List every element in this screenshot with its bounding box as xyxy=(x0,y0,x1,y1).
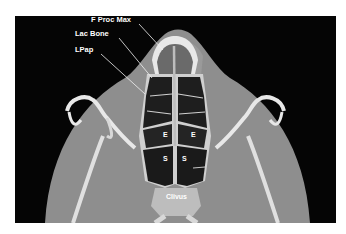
region-label-ethmoid-left: E xyxy=(163,131,168,138)
region-label-clivus: Clivus xyxy=(166,193,187,200)
ct-scan-image: F Proc Max Lac Bone LPap E E S S Clivus xyxy=(15,16,336,223)
region-label-sphenoid-left: S xyxy=(163,155,168,162)
region-label-sphenoid-right: S xyxy=(182,155,187,162)
annotation-lac-bone: Lac Bone xyxy=(75,30,109,38)
annotation-lpap: LPap xyxy=(75,46,93,54)
ct-scan-graphic xyxy=(15,16,336,223)
region-label-ethmoid-right: E xyxy=(191,131,196,138)
annotation-f-proc-max: F Proc Max xyxy=(91,16,131,24)
